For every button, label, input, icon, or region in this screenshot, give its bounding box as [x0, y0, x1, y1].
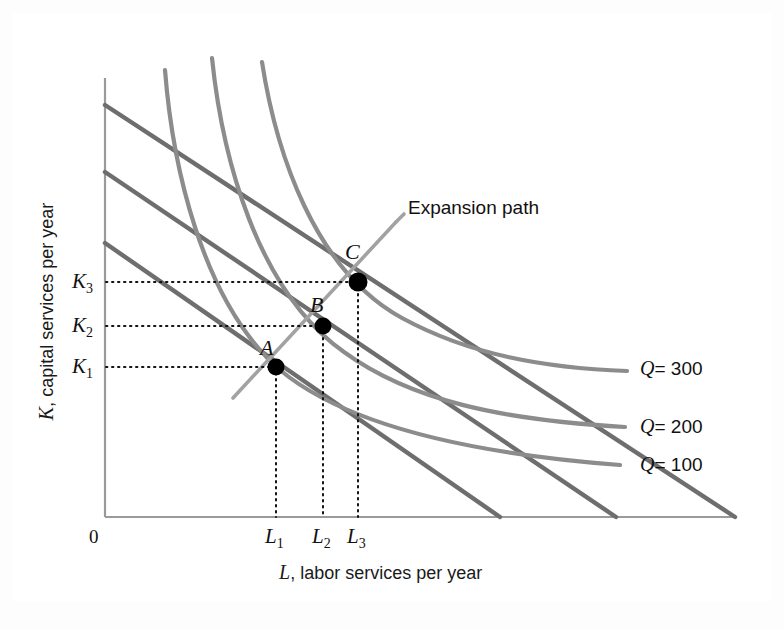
x-axis-title: L, labor services per year	[279, 562, 482, 582]
q-symbol-200: Q	[640, 415, 654, 437]
x-tick-l3-sub: 3	[359, 536, 366, 551]
y-tick-k2-sub: 2	[86, 325, 93, 340]
expansion-path-label: Expansion path	[408, 198, 539, 217]
y-tick-label-k2: K2	[72, 315, 93, 340]
y-axis-title: K, capital services per year	[37, 203, 57, 420]
point-marker-c	[349, 273, 368, 292]
origin-label: 0	[89, 527, 99, 546]
point-label-b: B	[310, 294, 323, 316]
expansion-path-leader	[396, 214, 404, 222]
x-tick-label-l3: L3	[347, 526, 366, 551]
point-marker-a	[268, 359, 285, 376]
isoquant-label-q300: Q= 300	[640, 358, 703, 378]
y-tick-k2-base: K	[72, 313, 86, 337]
x-tick-label-l2: L2	[312, 526, 331, 551]
x-tick-l1-base: L	[265, 524, 277, 548]
x-tick-label-l1: L1	[265, 526, 284, 551]
chart-canvas	[0, 0, 784, 629]
point-marker-b	[315, 318, 332, 335]
y-tick-label-k1: K1	[72, 356, 93, 381]
y-axis-title-wrapper: K, capital services per year	[35, 162, 58, 462]
x-tick-l3-base: L	[347, 524, 359, 548]
isoquant-label-q200: Q= 200	[640, 416, 703, 436]
isoquant-label-q100: Q= 100	[640, 454, 703, 474]
q-value-100: = 100	[654, 454, 702, 475]
x-axis-title-symbol: L	[279, 561, 290, 583]
q-value-300: = 300	[654, 358, 702, 379]
q-symbol-300: Q	[640, 357, 654, 379]
y-axis-title-text: , capital services per year	[37, 203, 57, 407]
x-tick-l2-base: L	[312, 524, 324, 548]
y-tick-k1-sub: 1	[86, 366, 93, 381]
q-symbol-100: Q	[640, 453, 654, 475]
isocost-line-1	[105, 243, 500, 517]
x-axis-title-text: , labor services per year	[290, 563, 482, 583]
isocost-line-2	[105, 172, 616, 517]
y-tick-k3-sub: 3	[86, 281, 93, 296]
point-label-c: C	[345, 241, 360, 263]
point-label-a: A	[260, 337, 273, 359]
y-tick-k3-base: K	[72, 269, 86, 293]
q-value-200: = 200	[654, 416, 702, 437]
figure-root: A B C Expansion path Q= 300 Q= 200 Q= 10…	[0, 0, 784, 629]
y-axis-title-symbol: K	[35, 407, 57, 420]
y-tick-k1-base: K	[72, 354, 86, 378]
y-tick-label-k3: K3	[72, 271, 93, 296]
isoquant-q100	[165, 70, 620, 465]
x-tick-l2-sub: 2	[324, 536, 331, 551]
x-tick-l1-sub: 1	[277, 536, 284, 551]
